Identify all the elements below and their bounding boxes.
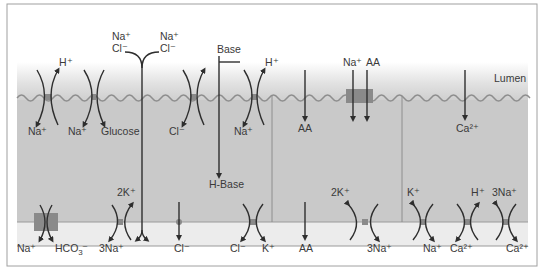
- label-3na-baso-3: 3Na⁺: [492, 186, 517, 198]
- label-lumen: Lumen: [494, 72, 526, 84]
- label-k-baso-1: K⁺: [262, 242, 275, 254]
- label-2k-baso-1: 2K⁺: [117, 186, 136, 198]
- label-h-base: H-Base: [209, 178, 244, 190]
- label-aa-baso: AA: [299, 242, 313, 254]
- label-ca-apical: Ca²⁺: [456, 122, 479, 134]
- label-na-apical-3: Na⁺: [234, 125, 253, 137]
- label-3na-baso-1: 3Na⁺: [99, 242, 124, 254]
- label-ca-baso-1: Ca²⁺: [450, 242, 473, 254]
- label-na-apical-1: Na⁺: [28, 125, 47, 137]
- label-h-apical-1: H⁺: [59, 56, 73, 68]
- label-na-lumen-right: Na⁺: [160, 30, 179, 42]
- label-glucose: Glucose: [101, 125, 140, 137]
- label-2k-baso-2: 2K⁺: [331, 186, 350, 198]
- label-3na-baso-2: 3Na⁺: [367, 242, 392, 254]
- label-na-apical-4: Na⁺: [343, 56, 362, 68]
- label-cl-apical: Cl⁻: [169, 125, 185, 137]
- label-cl-baso-1: Cl⁻: [174, 242, 190, 254]
- label-aa-apical-1: AA: [298, 122, 312, 134]
- label-aa-apical-2: AA: [366, 56, 380, 68]
- label-na-apical-2: Na⁺: [68, 125, 87, 137]
- label-ca-baso-2: Ca²⁺: [506, 242, 529, 254]
- label-base: Base: [217, 43, 241, 55]
- label-na-lumen-left: Na⁺: [112, 30, 131, 42]
- label-h-baso: H⁺: [471, 186, 485, 198]
- label-cl-baso-2: Cl⁻: [230, 242, 246, 254]
- epithelial-transport-diagram: H⁺ Na⁺ Na⁺ Glucose Na⁺ Cl⁻ Na⁺ Cl⁻ Cl⁻ B…: [0, 0, 544, 270]
- label-cl-lumen-left: Cl⁻: [112, 42, 128, 54]
- label-h-apical-2: H⁺: [265, 56, 279, 68]
- label-k-baso-2: K⁺: [407, 186, 420, 198]
- label-cl-lumen-right: Cl⁻: [160, 42, 176, 54]
- label-na-baso-1: Na⁺: [17, 242, 36, 254]
- label-na-baso-2: Na⁺: [423, 242, 442, 254]
